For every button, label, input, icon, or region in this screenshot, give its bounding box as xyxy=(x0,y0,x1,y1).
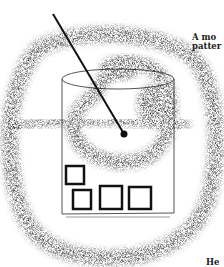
caption-bottom: He xyxy=(206,258,219,267)
squares-group xyxy=(66,166,151,209)
square-1 xyxy=(66,166,84,184)
square-3 xyxy=(100,186,122,209)
square-4 xyxy=(129,187,151,209)
inner-stipple-loop xyxy=(10,56,190,162)
caption-top-line2: patter xyxy=(192,42,221,51)
square-2 xyxy=(73,190,91,209)
diagram-figure xyxy=(0,0,224,267)
